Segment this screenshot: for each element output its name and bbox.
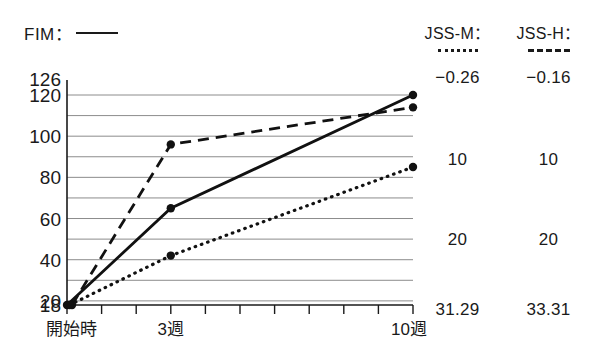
x-axis-labels: 開始時3週10週 xyxy=(46,320,427,339)
stat-jss-m: 10 xyxy=(412,150,503,170)
x-axis-ticks xyxy=(67,305,413,314)
stat-jss-h: −0.16 xyxy=(503,68,594,88)
stat-row: 31.29 33.31 xyxy=(412,300,594,320)
stat-jss-m: 31.29 xyxy=(412,300,503,320)
solid-line-swatch-icon xyxy=(76,32,118,34)
stat-row: −0.26 −0.16 xyxy=(412,68,594,88)
svg-text:60: 60 xyxy=(40,209,61,230)
stat-row: 20 20 xyxy=(412,230,594,250)
stat-jss-h: 20 xyxy=(503,230,594,250)
stat-jss-h: 33.31 xyxy=(503,300,594,320)
stat-jss-m: 20 xyxy=(412,230,503,250)
y-axis-labels: 1261201008060402018 xyxy=(29,69,61,316)
legend-jss-h-label: JSS-H： xyxy=(516,20,580,44)
legend-jss: JSS-M： JSS-H： xyxy=(412,20,594,55)
stat-jss-h: 10 xyxy=(503,150,594,170)
svg-text:100: 100 xyxy=(29,126,61,147)
stat-row: 10 10 xyxy=(412,150,594,170)
stat-columns: −0.26 −0.16 10 10 20 20 31.29 33.31 xyxy=(412,62,594,332)
svg-text:40: 40 xyxy=(40,250,61,271)
dotted-line-swatch-icon xyxy=(438,45,478,55)
svg-text:80: 80 xyxy=(40,167,61,188)
svg-text:18: 18 xyxy=(40,295,61,316)
svg-text:3週: 3週 xyxy=(158,320,184,339)
svg-text:開始時: 開始時 xyxy=(46,320,97,339)
legend-fim-label: FIM： xyxy=(24,20,72,45)
stat-jss-m: −0.26 xyxy=(412,68,503,88)
legend-jss-h: JSS-H： xyxy=(503,20,594,55)
gridlines xyxy=(67,95,413,301)
dashed-line-swatch-icon xyxy=(528,45,570,55)
legend-jss-m: JSS-M： xyxy=(412,20,503,55)
legend-jss-m-label: JSS-M： xyxy=(425,20,491,44)
chart-figure: FIM： JSS-M： JSS-H： 1261201008060402018 開… xyxy=(0,0,599,358)
data-series xyxy=(63,91,417,309)
svg-text:120: 120 xyxy=(29,85,61,106)
legend-fim: FIM： xyxy=(24,20,118,45)
